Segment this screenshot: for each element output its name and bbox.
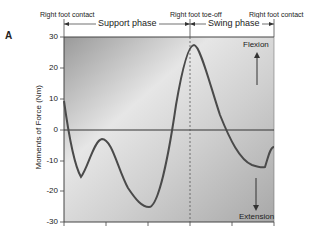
y-tick-30: 30: [38, 32, 58, 41]
extension-label: Extension: [239, 212, 274, 221]
y-axis-label: Moments of Force (Nm): [34, 90, 43, 170]
y-tick-20: 20: [38, 63, 58, 72]
flexion-label: Flexion: [243, 40, 269, 49]
y-tick-neg20: -20: [38, 186, 58, 195]
swing-phase-label: Swing phase: [206, 18, 262, 28]
support-phase-label: Support phase: [96, 18, 159, 28]
y-tick-neg30: -30: [38, 217, 58, 226]
